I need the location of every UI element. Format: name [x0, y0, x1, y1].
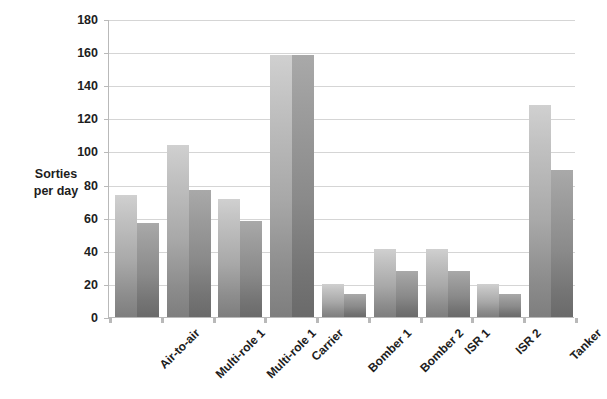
y-axis-tick-label: 0: [58, 312, 98, 325]
x-axis-category-label: Tanker: [567, 326, 604, 363]
x-axis-category-label: Multi-role 1: [212, 326, 267, 381]
y-axis-tick-mark: [104, 252, 109, 253]
y-axis-tick-mark: [104, 86, 109, 87]
bar: [529, 105, 551, 317]
bar: [448, 271, 470, 317]
bar-group: [218, 19, 262, 317]
x-axis-category-label: Bomber 2: [417, 326, 466, 375]
y-axis-tick-label: 60: [58, 213, 98, 226]
y-axis-tick-mark: [104, 119, 109, 120]
bar: [374, 249, 396, 317]
x-axis-tick-mark: [368, 318, 371, 323]
bar: [137, 223, 159, 317]
y-axis-tick-mark: [104, 20, 109, 21]
bar: [322, 284, 344, 317]
bar: [218, 199, 240, 317]
y-axis-tick-label: 140: [58, 80, 98, 93]
bar: [551, 170, 573, 317]
bar-group: [167, 19, 211, 317]
bar-group: [477, 19, 521, 317]
y-axis-tick-label: 20: [58, 279, 98, 292]
x-axis-category-label: Air-to-air: [157, 326, 203, 372]
x-axis-tick-mark: [213, 318, 216, 323]
bar-group: [374, 19, 418, 317]
bar: [292, 55, 314, 317]
bar-group: [426, 19, 470, 317]
x-axis-category-label: Bomber 1: [365, 326, 414, 375]
bar-chart: Sorties per day 020406080100120140160180…: [0, 0, 607, 399]
bar: [396, 271, 418, 317]
bar-group: [115, 19, 159, 317]
bar-group: [322, 19, 366, 317]
bar: [115, 195, 137, 318]
plot-area: [108, 20, 574, 318]
y-axis-tick-mark: [104, 285, 109, 286]
bar: [167, 145, 189, 317]
bar: [477, 284, 499, 317]
y-axis-tick-label: 160: [58, 47, 98, 60]
y-axis-tick-mark: [104, 53, 109, 54]
x-axis-tick-mark: [523, 318, 526, 323]
x-axis-tick-mark: [316, 318, 319, 323]
x-axis-tick-mark: [471, 318, 474, 323]
y-axis-tick-mark: [104, 152, 109, 153]
x-axis-tick-mark: [575, 318, 578, 323]
y-axis-tick-mark: [104, 186, 109, 187]
x-axis-tick-mark: [420, 318, 423, 323]
y-axis-tick-label: 120: [58, 113, 98, 126]
x-axis-tick-mark: [109, 318, 112, 323]
bar: [426, 249, 448, 317]
bar-group: [529, 19, 573, 317]
y-axis-tick-mark: [104, 219, 109, 220]
x-axis-category-label: ISR 1: [461, 326, 492, 357]
bar: [189, 190, 211, 317]
y-axis-tick-label: 100: [58, 146, 98, 159]
x-axis-tick-mark: [161, 318, 164, 323]
y-axis-tick-label: 40: [58, 246, 98, 259]
bar: [240, 221, 262, 317]
bar: [499, 294, 521, 317]
x-axis-category-label: ISR 2: [513, 326, 544, 357]
bar: [344, 294, 366, 317]
y-axis-tick-label: 80: [58, 180, 98, 193]
y-axis-tick-label: 180: [58, 14, 98, 27]
bar: [270, 55, 292, 317]
x-axis-tick-mark: [264, 318, 267, 323]
bar-group: [270, 19, 314, 317]
